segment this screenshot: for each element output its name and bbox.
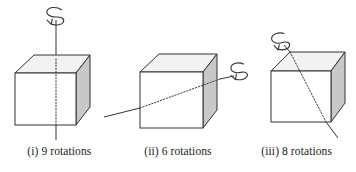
rotations-figure: (i) 9 rotations (ii) 6 rotations (iii) 8… bbox=[0, 0, 356, 172]
cube-i-front-face bbox=[15, 73, 76, 125]
caption-panel-i: (i) 9 rotations bbox=[0, 144, 119, 158]
cube-panel-iii bbox=[271, 33, 345, 138]
cube-iii-front-face bbox=[271, 71, 331, 122]
captions-row: (i) 9 rotations (ii) 6 rotations (iii) 8… bbox=[0, 144, 356, 172]
spiral-arrow-icon-iii bbox=[272, 33, 290, 50]
spiral-arrow-icon-ii bbox=[231, 63, 247, 80]
cube-panel-i bbox=[15, 8, 90, 140]
cube-panel-ii bbox=[104, 54, 247, 128]
cube-ii-front-face bbox=[140, 72, 203, 128]
caption-panel-ii: (ii) 6 rotations bbox=[119, 144, 238, 158]
axis-line-iii-bottom bbox=[326, 122, 338, 138]
caption-panel-iii: (iii) 8 rotations bbox=[237, 144, 356, 158]
spiral-arrow-icon-i bbox=[47, 8, 64, 25]
axis-line-ii-left bbox=[104, 108, 140, 117]
